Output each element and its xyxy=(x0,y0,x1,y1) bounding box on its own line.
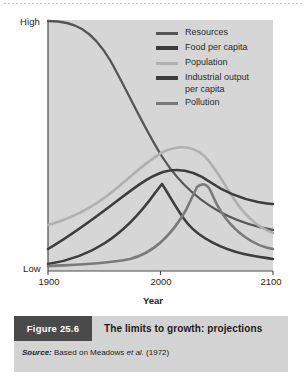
x-tick-label-2000: 2000 xyxy=(146,276,176,287)
figure-caption-block: Figure 25.6 The limits to growth: projec… xyxy=(14,316,288,372)
x-axis-title: Year xyxy=(0,295,306,306)
x-tick-label-1900: 1900 xyxy=(34,276,64,287)
legend-swatch-industrial-output xyxy=(156,76,178,80)
source-prefix: Source: xyxy=(22,348,52,357)
legend-swatch-population xyxy=(156,62,178,65)
legend-item-food-per-capita: Food per capita xyxy=(156,42,274,55)
chart-figure: High Low 1900 2000 2100 Year Resources F… xyxy=(0,0,306,312)
legend-label-pollution: Pollution xyxy=(185,97,220,109)
legend-item-population: Population xyxy=(156,57,274,70)
source-text-a: Based on Meadows xyxy=(52,348,127,357)
source-text-b: (1972) xyxy=(144,348,169,357)
y-axis-high-label: High xyxy=(20,16,40,27)
legend-label-food-per-capita: Food per capita xyxy=(185,42,248,54)
y-axis-low-label: Low xyxy=(23,263,41,274)
source-et-al: et al. xyxy=(127,348,144,357)
legend-label-industrial-output: Industrial output per capita xyxy=(185,72,249,95)
figure-source-line: Source: Based on Meadows et al. (1972) xyxy=(22,348,169,357)
legend-item-pollution: Pollution xyxy=(156,97,274,110)
figure-caption-title: The limits to growth: projections xyxy=(92,316,288,341)
legend-item-industrial-output: Industrial output per capita xyxy=(156,72,274,95)
legend-label-resources: Resources xyxy=(185,27,228,39)
legend-swatch-pollution xyxy=(156,102,178,105)
legend-item-resources: Resources xyxy=(156,27,274,40)
figure-page: High Low 1900 2000 2100 Year Resources F… xyxy=(0,0,306,384)
caption-header-row: Figure 25.6 The limits to growth: projec… xyxy=(14,316,288,341)
legend-label-population: Population xyxy=(185,57,228,69)
figure-number-badge: Figure 25.6 xyxy=(14,316,92,341)
legend-swatch-food-per-capita xyxy=(156,46,178,50)
legend-swatch-resources xyxy=(156,32,178,35)
x-tick-label-2100: 2100 xyxy=(256,276,286,287)
chart-legend: Resources Food per capita Population Ind… xyxy=(156,27,274,112)
